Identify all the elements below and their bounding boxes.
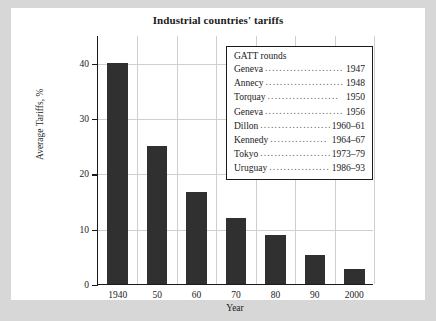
legend-dot-leader: .................. bbox=[269, 160, 330, 174]
x-tick-label: 80 bbox=[271, 290, 281, 300]
y-tick-label: 20 bbox=[80, 169, 90, 179]
chart-title: Industrial countries' tariffs bbox=[11, 14, 425, 26]
legend-row: Tokyo....................1973–79 bbox=[234, 147, 365, 161]
legend-dot-leader: .................... bbox=[268, 89, 344, 103]
legend-dot-leader: .................... bbox=[260, 146, 330, 160]
legend-row: Kennedy................1964–67 bbox=[234, 133, 365, 147]
legend-round-years: 1950 bbox=[346, 90, 365, 104]
y-tick-label: 0 bbox=[84, 280, 89, 290]
legend-round-years: 1986–93 bbox=[332, 161, 365, 175]
legend-round-name: Geneva bbox=[234, 62, 263, 76]
y-tick-mark bbox=[92, 230, 98, 231]
legend-round-years: 1964–67 bbox=[332, 133, 365, 147]
x-tick-label: 2000 bbox=[345, 290, 364, 300]
bar bbox=[226, 218, 247, 284]
legend-dot-leader: ........................ bbox=[265, 104, 344, 118]
legend-round-name: Tokyo bbox=[234, 147, 258, 161]
y-tick-label: 30 bbox=[80, 114, 90, 124]
legend-round-name: Uruguay bbox=[234, 161, 267, 175]
x-tick-label: 1940 bbox=[108, 290, 127, 300]
legend-dot-leader: ........................ bbox=[265, 61, 344, 75]
legend-round-name: Dillon bbox=[234, 119, 258, 133]
bar bbox=[265, 235, 286, 284]
bar bbox=[107, 63, 128, 284]
legend-box: GATT rounds Geneva......................… bbox=[226, 46, 373, 180]
legend-row: Dillon....................1960–61 bbox=[234, 119, 365, 133]
y-tick-mark bbox=[92, 174, 98, 175]
legend-row: Geneva........................1947 bbox=[234, 62, 365, 76]
chart-figure: Industrial countries' tariffs Average Ta… bbox=[11, 8, 425, 300]
x-gridline bbox=[177, 36, 178, 284]
x-axis-title: Year bbox=[97, 303, 373, 313]
legend-title: GATT rounds bbox=[234, 51, 365, 61]
legend-round-years: 1948 bbox=[346, 76, 365, 90]
legend-row: Geneva........................1956 bbox=[234, 105, 365, 119]
y-tick-label: 40 bbox=[80, 59, 90, 69]
bar bbox=[344, 269, 365, 284]
legend-round-years: 1973–79 bbox=[332, 147, 365, 161]
legend-round-years: 1956 bbox=[346, 105, 365, 119]
legend-row: Torquay....................1950 bbox=[234, 90, 365, 104]
legend-round-name: Geneva bbox=[234, 105, 263, 119]
legend-round-years: 1947 bbox=[346, 62, 365, 76]
legend-row: Uruguay..................1986–93 bbox=[234, 161, 365, 175]
legend-round-name: Kennedy bbox=[234, 133, 268, 147]
y-tick-mark bbox=[92, 285, 98, 286]
x-tick-label: 70 bbox=[231, 290, 241, 300]
y-axis-title: Average Tariffs, % bbox=[35, 89, 45, 160]
legend-rows: Geneva........................1947Annecy… bbox=[234, 62, 365, 176]
x-gridline bbox=[216, 36, 217, 284]
x-tick-label: 50 bbox=[152, 290, 162, 300]
bar bbox=[147, 146, 168, 284]
y-tick-label: 10 bbox=[80, 225, 90, 235]
legend-dot-leader: ........................ bbox=[266, 75, 344, 89]
bar bbox=[186, 192, 207, 284]
legend-dot-leader: ................ bbox=[270, 132, 329, 146]
bar bbox=[305, 255, 326, 284]
y-tick-mark bbox=[92, 64, 98, 65]
legend-dot-leader: .................... bbox=[260, 118, 329, 132]
x-tick-label: 90 bbox=[310, 290, 320, 300]
y-tick-mark bbox=[92, 119, 98, 120]
x-gridline bbox=[374, 36, 375, 284]
legend-round-name: Torquay bbox=[234, 90, 266, 104]
legend-round-years: 1960–61 bbox=[332, 119, 365, 133]
legend-round-name: Annecy bbox=[234, 76, 264, 90]
x-gridline bbox=[137, 36, 138, 284]
x-tick-label: 60 bbox=[192, 290, 202, 300]
legend-row: Annecy........................1948 bbox=[234, 76, 365, 90]
